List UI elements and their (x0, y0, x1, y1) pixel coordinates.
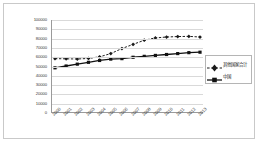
data-point-marker (176, 52, 179, 55)
y-axis-tick-label: 70000 (36, 46, 47, 50)
gridline (52, 76, 203, 77)
y-axis-tick-label: 50000 (36, 64, 47, 68)
gridline (52, 48, 203, 49)
y-axis-tick-label: 30000 (36, 83, 47, 87)
chart-outer-frame: 1000009000080000700006000050000400003000… (3, 3, 255, 139)
legend-label-china: 中国 (222, 74, 231, 79)
y-axis-tick-label: 80000 (36, 36, 47, 40)
y-axis: 1000009000080000700006000050000400003000… (13, 13, 49, 113)
y-axis-tick-label: 40000 (36, 74, 47, 78)
y-axis-tick-label: 10000 (36, 102, 47, 106)
gridline (52, 85, 203, 86)
legend-item-other-countries[interactable]: 其他国家合计 (207, 58, 250, 70)
legend-label-other-countries: 其他国家合计 (222, 62, 247, 67)
y-axis-tick-label: 0 (45, 111, 47, 115)
data-point-marker (165, 53, 168, 56)
y-axis-tick-label: 60000 (36, 55, 47, 59)
plot-area (51, 20, 203, 113)
data-point-marker (187, 51, 190, 54)
chart-panel: 1000009000080000700006000050000400003000… (13, 13, 253, 137)
gridline (52, 67, 203, 68)
gridline (52, 39, 203, 40)
diamond-marker-icon (207, 59, 222, 69)
legend-item-china[interactable]: 中国 (207, 70, 250, 82)
data-point-marker (198, 51, 201, 54)
square-marker-icon (207, 71, 222, 81)
data-point-marker (87, 61, 90, 64)
gridline (52, 104, 203, 105)
data-point-marker (109, 52, 113, 56)
gridline (52, 20, 203, 21)
gridline (52, 57, 203, 58)
y-axis-tick-label: 90000 (36, 27, 47, 31)
data-point-marker (98, 59, 101, 62)
gridline (52, 94, 203, 95)
chart-legend: 其他国家合计 中国 (205, 55, 252, 84)
data-point-marker (76, 63, 79, 66)
data-point-marker (131, 43, 135, 47)
gridline (52, 29, 203, 30)
y-axis-tick-label: 20000 (36, 92, 47, 96)
x-axis: 2000200120022003200420052006200720082009… (51, 114, 203, 144)
y-axis-tick-label: 100000 (34, 18, 47, 22)
